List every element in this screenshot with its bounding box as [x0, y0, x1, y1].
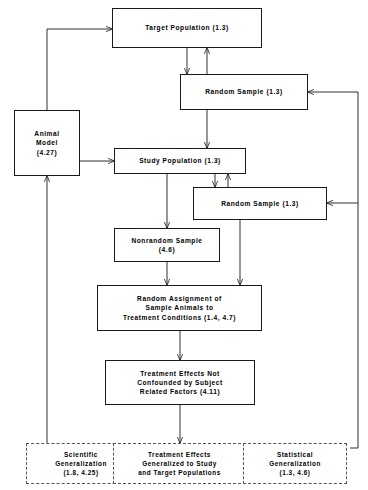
- node-statistical-generalization-label: Statistical Generalization (1.3, 4.6): [266, 450, 324, 477]
- node-animal-model[interactable]: Animal Model (4.27): [14, 110, 80, 176]
- node-random-sample-top-label: Random Sample (1.3): [202, 87, 286, 96]
- node-treatment-effects-not-confounded[interactable]: Treatment Effects Not Confounded by Subj…: [105, 360, 255, 405]
- node-random-sample-lower-label: Random Sample (1.3): [218, 199, 302, 208]
- node-target-population[interactable]: Target Population (1.3): [112, 8, 262, 48]
- node-study-population-label: Study Population (1.3): [136, 156, 224, 165]
- node-treatment-effects-generalized-label: Treatment Effects Generalized to Study a…: [135, 450, 224, 477]
- node-random-sample-lower[interactable]: Random Sample (1.3): [193, 187, 327, 220]
- node-statistical-generalization[interactable]: Statistical Generalization (1.3, 4.6): [243, 443, 347, 484]
- node-nonrandom-sample-label: Nonrandom Sample (4.6): [128, 236, 205, 254]
- node-treatment-effects-not-confounded-label: Treatment Effects Not Confounded by Subj…: [134, 369, 226, 397]
- connector-animal-model-to-target: [47, 29, 112, 110]
- node-scientific-generalization-label: Scientific Generalization (1.8, 4.25): [52, 450, 110, 477]
- node-random-assignment-label: Random Assignment of Sample Animals to T…: [120, 294, 239, 322]
- node-treatment-effects-generalized[interactable]: Treatment Effects Generalized to Study a…: [113, 443, 246, 484]
- diagram-canvas: Target Population (1.3) Random Sample (1…: [0, 0, 368, 490]
- node-study-population[interactable]: Study Population (1.3): [114, 148, 246, 174]
- node-nonrandom-sample[interactable]: Nonrandom Sample (4.6): [114, 228, 220, 262]
- node-target-population-label: Target Population (1.3): [142, 23, 232, 32]
- connector-statistical-generalization-rail: [350, 92, 358, 448]
- node-random-assignment[interactable]: Random Assignment of Sample Animals to T…: [97, 285, 262, 331]
- node-random-sample-top[interactable]: Random Sample (1.3): [180, 74, 308, 110]
- node-animal-model-label: Animal Model (4.27): [31, 129, 62, 157]
